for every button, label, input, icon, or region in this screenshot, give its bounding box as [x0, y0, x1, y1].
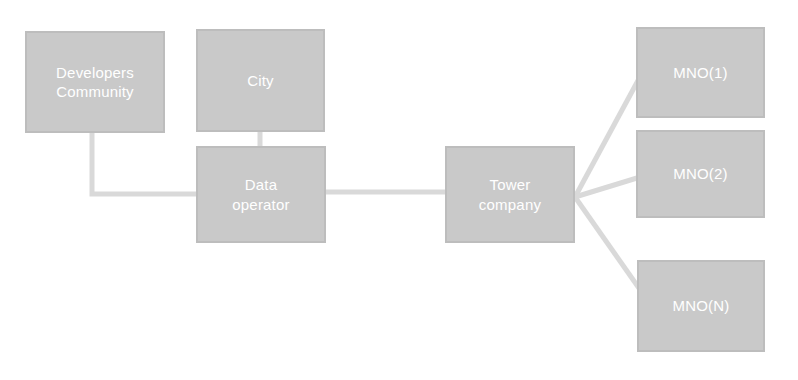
node-developers-community[interactable]: Developers Community	[25, 31, 165, 133]
edge-tower-company-to-mno-2	[575, 178, 637, 197]
node-label-city: City	[241, 71, 280, 90]
node-mno-n[interactable]: MNO(N)	[637, 260, 765, 352]
node-data-operator[interactable]: Data operator	[196, 146, 326, 243]
node-label-developers-community: Developers Community	[50, 63, 140, 101]
node-label-mno-n: MNO(N)	[666, 296, 735, 315]
node-label-mno-1: MNO(1)	[667, 63, 734, 82]
diagram-canvas: Developers CommunityCityData operatorTow…	[0, 0, 798, 380]
edge-tower-company-to-mno-1	[575, 75, 641, 197]
node-mno-2[interactable]: MNO(2)	[636, 130, 765, 218]
node-city[interactable]: City	[196, 29, 325, 132]
edge-developers-to-data-operator	[92, 133, 196, 194]
node-tower-company[interactable]: Tower company	[445, 146, 575, 243]
node-mno-1[interactable]: MNO(1)	[636, 27, 765, 118]
node-label-mno-2: MNO(2)	[667, 164, 734, 183]
node-label-data-operator: Data operator	[226, 175, 295, 213]
node-label-tower-company: Tower company	[473, 175, 547, 213]
